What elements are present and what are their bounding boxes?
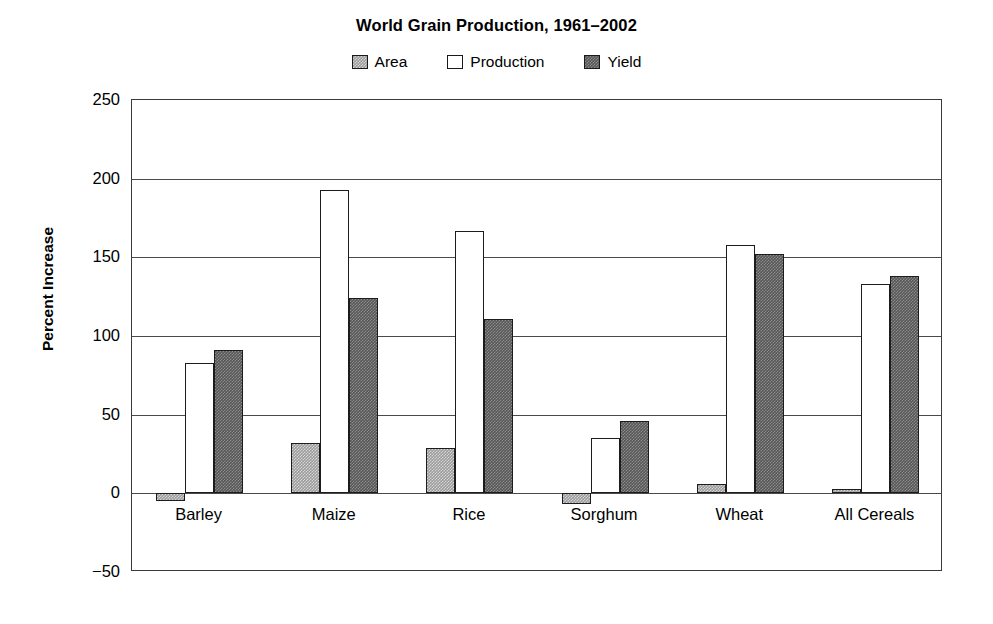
- legend-label: Production: [470, 54, 544, 70]
- bar-rice-production: [455, 231, 484, 494]
- legend-item-yield: Yield: [584, 54, 641, 70]
- bar-maize-yield: [349, 298, 378, 493]
- bar-maize-production: [320, 190, 349, 494]
- bar-barley-area: [156, 493, 185, 501]
- bar-all-cereals-area: [832, 489, 861, 494]
- plot-area: [131, 99, 942, 571]
- bar-barley-yield: [214, 350, 243, 493]
- y-axis-tick-labels: 250200150100500−50: [54, 99, 120, 571]
- chart-legend: AreaProductionYield: [0, 54, 993, 70]
- legend-swatch-icon: [352, 55, 368, 69]
- y-axis-tick-label: 250: [54, 90, 120, 109]
- x-axis-label-maize: Maize: [312, 505, 356, 524]
- y-axis-tick-label: 0: [54, 483, 120, 502]
- legend-swatch-icon: [584, 55, 600, 69]
- bar-sorghum-area: [562, 493, 591, 504]
- legend-label: Yield: [607, 54, 641, 70]
- x-axis-category-labels: BarleyMaizeRiceSorghumWheatAll Cereals: [131, 505, 942, 535]
- bar-all-cereals-yield: [890, 276, 919, 493]
- bar-sorghum-yield: [620, 421, 649, 493]
- bar-all-cereals-production: [861, 284, 890, 493]
- bar-wheat-production: [726, 245, 755, 494]
- legend-item-production: Production: [447, 54, 544, 70]
- bar-sorghum-production: [591, 438, 620, 493]
- x-axis-label-barley: Barley: [175, 505, 222, 524]
- x-axis-label-wheat: Wheat: [715, 505, 763, 524]
- bar-wheat-yield: [755, 254, 784, 493]
- legend-label: Area: [375, 54, 408, 70]
- chart-container: World Grain Production, 1961–2002 AreaPr…: [0, 0, 993, 624]
- bar-rice-area: [426, 448, 455, 494]
- legend-item-area: Area: [352, 54, 408, 70]
- bar-rice-yield: [484, 319, 513, 494]
- gridline: [132, 257, 941, 258]
- bar-wheat-area: [697, 484, 726, 493]
- gridline: [132, 493, 941, 494]
- chart-title: World Grain Production, 1961–2002: [0, 16, 993, 35]
- bar-maize-area: [291, 443, 320, 493]
- x-axis-label-all-cereals: All Cereals: [835, 505, 915, 524]
- y-axis-tick-label: −50: [54, 562, 120, 581]
- gridline: [132, 415, 941, 416]
- bar-barley-production: [185, 363, 214, 494]
- y-axis-tick-label: 150: [54, 247, 120, 266]
- x-axis-label-rice: Rice: [452, 505, 485, 524]
- gridline: [132, 336, 941, 337]
- y-axis-tick-label: 100: [54, 326, 120, 345]
- y-axis-tick-label: 200: [54, 168, 120, 187]
- legend-swatch-icon: [447, 55, 463, 69]
- gridline: [132, 179, 941, 180]
- x-axis-label-sorghum: Sorghum: [571, 505, 638, 524]
- y-axis-tick-label: 50: [54, 404, 120, 423]
